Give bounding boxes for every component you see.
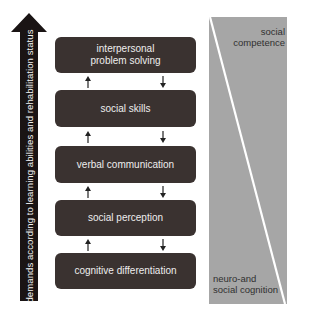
demands-arrow-label: demands according to learning abilities …: [23, 29, 34, 302]
level-label-line-1: interpersonal: [90, 43, 160, 55]
level-cognitive-differentiation: cognitive differentiation: [55, 253, 196, 289]
competence-cognition-panel: [209, 17, 287, 304]
level-social-perception: social perception: [55, 200, 196, 236]
level-interpersonal-problem-solving: interpersonal problem solving: [55, 37, 196, 73]
social-competence-line-2: competence: [233, 37, 285, 48]
level-label-line-2: problem solving: [90, 55, 160, 67]
up-arrow-icon: [84, 239, 92, 251]
social-competence-label: social competence: [233, 26, 285, 48]
down-arrow-icon: [159, 131, 167, 143]
level-verbal-communication: verbal communication: [55, 146, 196, 183]
neuro-social-cognition-label: neuro-and social cognition: [213, 273, 278, 295]
down-arrow-icon: [159, 76, 167, 88]
down-arrow-icon: [159, 186, 167, 198]
down-arrow-icon: [159, 239, 167, 251]
up-arrow-icon: [84, 76, 92, 88]
social-competence-line-1: social: [233, 26, 285, 37]
neuro-social-cognition-line-1: neuro-and: [213, 273, 278, 284]
neuro-social-cognition-line-2: social cognition: [213, 284, 278, 295]
up-arrow-icon: [84, 131, 92, 143]
level-social-skills: social skills: [55, 90, 196, 127]
up-arrow-icon: [84, 186, 92, 198]
